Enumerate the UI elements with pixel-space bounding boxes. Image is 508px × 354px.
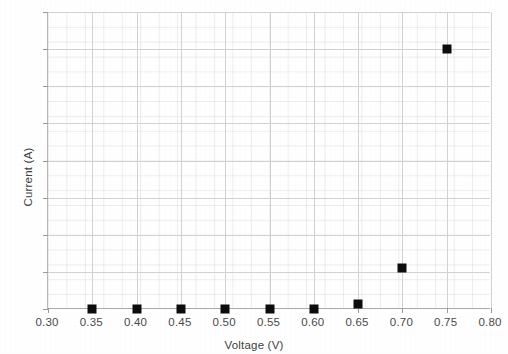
- tick-mark-y: [43, 49, 48, 50]
- x-axis-tick-label: 0.65: [346, 316, 369, 328]
- tick-mark-y: [43, 123, 48, 124]
- gridline-vertical: [225, 12, 226, 308]
- x-axis-tick-label: 0.60: [301, 316, 324, 328]
- x-axis-tick-label: 0.40: [124, 316, 147, 328]
- x-axis-title: Voltage (V): [0, 339, 508, 351]
- gridline-vertical: [92, 12, 93, 308]
- plot-area: [47, 12, 490, 309]
- x-axis-tick-label: 0.55: [257, 316, 280, 328]
- data-point-marker: [398, 264, 407, 273]
- gridline-vertical: [447, 12, 448, 308]
- x-axis-tick-label: 0.30: [35, 316, 58, 328]
- gridline-vertical: [181, 12, 182, 308]
- x-axis-tick-label: 0.50: [213, 316, 236, 328]
- tick-mark-y: [43, 198, 48, 199]
- gridline-vertical: [314, 12, 315, 308]
- data-point-marker: [176, 305, 185, 314]
- x-axis-tick-label: 0.45: [168, 316, 191, 328]
- chart-figure: Current (A) 0.00.51.01.52.02.53.03.54.0 …: [0, 0, 508, 354]
- tick-mark-x: [358, 308, 359, 313]
- x-axis-tick-label: 0.75: [434, 316, 457, 328]
- data-point-marker: [265, 305, 274, 314]
- tick-mark-y: [43, 235, 48, 236]
- tick-mark-y: [43, 86, 48, 87]
- data-point-marker: [354, 299, 363, 308]
- tick-mark-x: [48, 308, 49, 313]
- tick-mark-y: [43, 272, 48, 273]
- x-axis-tick-label: 0.35: [80, 316, 103, 328]
- gridline-vertical: [491, 12, 492, 308]
- data-point-marker: [88, 305, 97, 314]
- tick-mark-y: [43, 12, 48, 13]
- data-point-marker: [442, 45, 451, 54]
- tick-mark-x: [447, 308, 448, 313]
- data-point-marker: [221, 305, 230, 314]
- x-axis-tick-label: 0.70: [390, 316, 413, 328]
- data-point-marker: [132, 305, 141, 314]
- gridline-vertical: [137, 12, 138, 308]
- tick-mark-x: [491, 308, 492, 313]
- tick-mark-y: [43, 161, 48, 162]
- data-point-marker: [309, 305, 318, 314]
- gridline-vertical: [358, 12, 359, 308]
- y-axis-title: Current (A): [22, 147, 34, 206]
- tick-mark-x: [402, 308, 403, 313]
- gridline-vertical: [270, 12, 271, 308]
- x-axis-tick-label: 0.80: [478, 316, 501, 328]
